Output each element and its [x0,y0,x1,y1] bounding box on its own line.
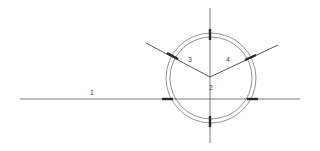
label-1: 1 [90,89,94,96]
label-4: 4 [226,56,230,63]
inner-circle [170,37,252,119]
geometry-diagram: 1 2 3 4 [0,0,320,151]
label-3: 3 [188,56,192,63]
outer-circle [166,33,256,123]
right-ray [210,45,278,77]
geometry-canvas [0,0,320,151]
left-ray [146,43,210,77]
label-2: 2 [209,84,213,91]
